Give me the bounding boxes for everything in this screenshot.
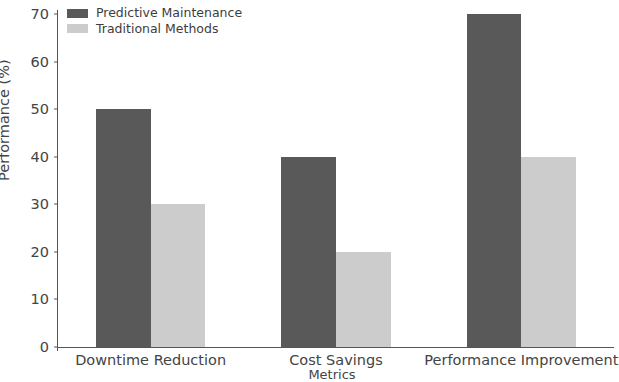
y-tick-label: 20 xyxy=(31,245,58,260)
bar xyxy=(467,14,522,347)
bar xyxy=(336,252,391,347)
x-tick-label: Performance Improvement xyxy=(424,352,618,368)
y-tick-label: 30 xyxy=(31,197,58,212)
bar xyxy=(521,157,576,347)
y-tick-label: 50 xyxy=(31,102,58,117)
y-axis-title: Performance (%) xyxy=(0,59,12,181)
y-tick-label: 60 xyxy=(31,54,58,69)
x-axis-line xyxy=(57,347,614,348)
x-tick-label: Cost Savings xyxy=(289,352,383,368)
legend-swatch xyxy=(67,24,88,33)
legend-label: Traditional Methods xyxy=(96,23,218,36)
y-tick-label: 0 xyxy=(40,340,58,355)
legend-label: Predictive Maintenance xyxy=(96,7,242,20)
y-tick-label: 10 xyxy=(31,292,58,307)
bar xyxy=(96,109,151,347)
bar xyxy=(281,157,336,347)
plot-area: 010203040506070 xyxy=(58,14,614,347)
x-axis-title: Metrics xyxy=(308,367,355,382)
legend-item: Traditional Methods xyxy=(67,23,242,36)
legend-item: Predictive Maintenance xyxy=(67,7,242,20)
bar xyxy=(151,204,206,347)
chart-legend: Predictive MaintenanceTraditional Method… xyxy=(62,4,249,39)
y-tick-label: 70 xyxy=(31,7,58,22)
y-tick-label: 40 xyxy=(31,149,58,164)
x-tick-label: Downtime Reduction xyxy=(75,352,226,368)
legend-swatch xyxy=(67,9,88,18)
